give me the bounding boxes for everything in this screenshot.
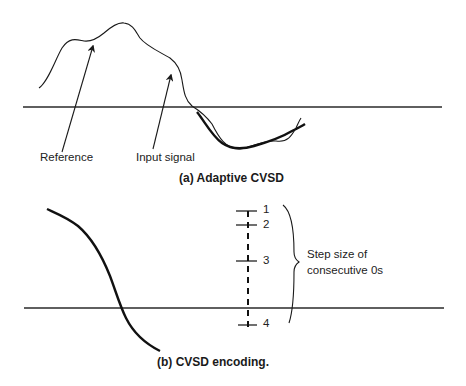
- signal-curve-b: [47, 209, 160, 351]
- reference-curve: [197, 112, 305, 148]
- caption-a: (a) Adaptive CVSD: [179, 171, 284, 185]
- brace-text-line2: consecutive 0s: [307, 264, 383, 276]
- caption-b: (b) CVSD encoding.: [157, 355, 269, 369]
- reference-label: Reference: [40, 151, 93, 163]
- brace-text-line1: Step size of: [307, 248, 367, 260]
- step-label-1: 1: [263, 203, 269, 215]
- brace: [283, 205, 299, 323]
- input-signal-label: Input signal: [136, 151, 195, 163]
- input-signal-curve: [39, 23, 301, 149]
- cvsd-diagram: [0, 0, 466, 386]
- step-label-3: 3: [263, 254, 269, 266]
- step-label-4: 4: [263, 317, 269, 329]
- input-signal-arrow: [153, 75, 171, 149]
- step-label-2: 2: [263, 218, 269, 230]
- reference-arrow: [62, 46, 93, 152]
